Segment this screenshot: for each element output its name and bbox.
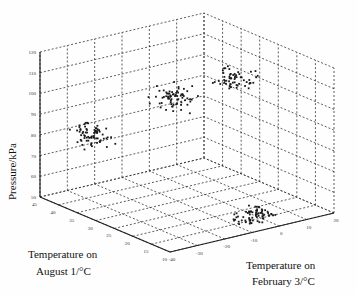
y-axis-label-line2: August 1/°C	[36, 265, 91, 277]
x-axis-label-line2: February 3/°C	[252, 275, 315, 287]
z-axis-label: Pressure/kPa	[6, 143, 18, 200]
scatter3d-chart: 12011010090807060504540353025201510-40-3…	[0, 0, 358, 295]
axis-labels: Pressure/kPa Temperature on August 1/°C …	[0, 0, 358, 295]
x-axis-label-line1: Temperature on	[246, 259, 316, 271]
y-axis-label-line1: Temperature on	[28, 248, 98, 260]
